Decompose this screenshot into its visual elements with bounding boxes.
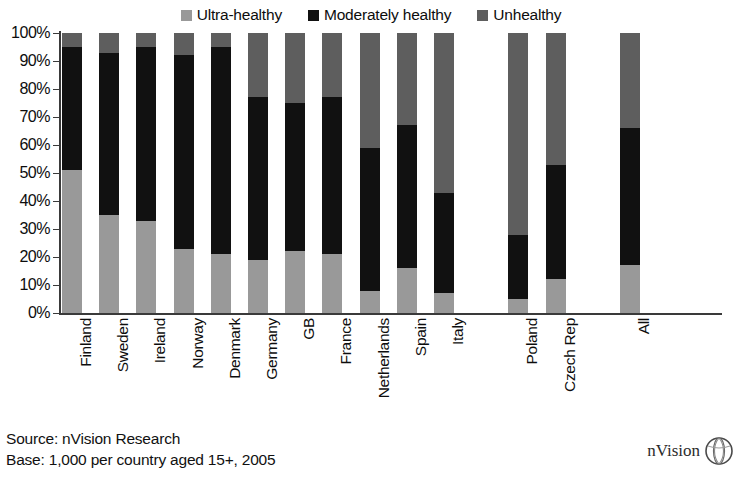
bar-segment-ultra-healthy[interactable] [285, 251, 305, 313]
stacked-bar[interactable] [434, 33, 454, 313]
y-axis-tick-label: 40% [0, 193, 50, 209]
x-axis-category-labels: FinlandSwedenIrelandNorwayDenmarkGermany… [62, 318, 722, 423]
y-axis-tick-label: 100% [0, 25, 50, 41]
bar-segment-ultra-healthy[interactable] [99, 215, 119, 313]
x-axis-label-spain: Spain [413, 318, 429, 356]
x-axis-label-france: France [338, 318, 354, 364]
bar-segment-unhealthy[interactable] [546, 33, 566, 165]
stacked-bar[interactable] [620, 33, 640, 313]
y-axis-tick-label: 10% [0, 277, 50, 293]
y-axis-line [59, 31, 61, 315]
x-axis-line [59, 313, 722, 315]
bar-segment-ultra-healthy[interactable] [136, 221, 156, 313]
bar-segment-ultra-healthy[interactable] [248, 260, 268, 313]
bar-segment-moderately-healthy[interactable] [322, 97, 342, 254]
x-axis-label-czech-rep: Czech Rep [562, 318, 578, 392]
y-axis-tick-label: 80% [0, 81, 50, 97]
bar-segment-moderately-healthy[interactable] [360, 148, 380, 291]
bar-segment-unhealthy[interactable] [174, 33, 194, 55]
bar-segment-unhealthy[interactable] [62, 33, 82, 47]
bar-segment-unhealthy[interactable] [397, 33, 417, 125]
stacked-bar[interactable] [211, 33, 231, 313]
bar-segment-moderately-healthy[interactable] [211, 47, 231, 254]
bar-segment-ultra-healthy[interactable] [397, 268, 417, 313]
y-axis-tick-label: 20% [0, 249, 50, 265]
y-axis-tick-label: 90% [0, 53, 50, 69]
stacked-bar[interactable] [360, 33, 380, 313]
bar-segment-moderately-healthy[interactable] [397, 125, 417, 268]
bar-segment-moderately-healthy[interactable] [508, 235, 528, 299]
bar-segment-unhealthy[interactable] [285, 33, 305, 103]
stacked-bar[interactable] [508, 33, 528, 313]
x-axis-label-netherlands: Netherlands [376, 318, 392, 398]
stacked-bar[interactable] [322, 33, 342, 313]
x-axis-label-finland: Finland [78, 318, 94, 367]
bar-segment-ultra-healthy[interactable] [508, 299, 528, 313]
y-axis-tick-label: 30% [0, 221, 50, 237]
footnote-base: Base: 1,000 per country aged 15+, 2005 [6, 449, 275, 470]
x-axis-label-poland: Poland [524, 318, 540, 364]
x-axis-label-norway: Norway [190, 318, 206, 369]
stacked-bar[interactable] [285, 33, 305, 313]
bar-segment-moderately-healthy[interactable] [248, 97, 268, 259]
bar-segment-moderately-healthy[interactable] [434, 193, 454, 294]
bar-segment-ultra-healthy[interactable] [546, 279, 566, 313]
stacked-bar[interactable] [62, 33, 82, 313]
y-axis-tick-label: 60% [0, 137, 50, 153]
stacked-bar[interactable] [248, 33, 268, 313]
bar-segment-unhealthy[interactable] [620, 33, 640, 128]
x-axis-label-ireland: Ireland [152, 318, 168, 363]
bar-segment-moderately-healthy[interactable] [546, 165, 566, 280]
y-axis-tick-label: 50% [0, 165, 50, 181]
stacked-bar[interactable] [546, 33, 566, 313]
stacked-bar[interactable] [174, 33, 194, 313]
bar-segment-moderately-healthy[interactable] [136, 47, 156, 221]
bar-segment-unhealthy[interactable] [211, 33, 231, 47]
stacked-bar-plot-area [62, 33, 722, 313]
bar-segment-ultra-healthy[interactable] [62, 170, 82, 313]
x-axis-label-gb: GB [301, 318, 317, 340]
bar-segment-unhealthy[interactable] [508, 33, 528, 235]
bar-segment-moderately-healthy[interactable] [620, 128, 640, 265]
x-axis-label-germany: Germany [264, 318, 280, 380]
bar-segment-unhealthy[interactable] [322, 33, 342, 97]
footnote-source: Source: nVision Research [6, 428, 275, 449]
bar-segment-unhealthy[interactable] [136, 33, 156, 47]
x-axis-label-all: All [636, 318, 652, 334]
bar-segment-ultra-healthy[interactable] [360, 291, 380, 313]
brand-logo: nVision [647, 436, 734, 466]
bar-segment-moderately-healthy[interactable] [285, 103, 305, 251]
bar-segment-ultra-healthy[interactable] [620, 265, 640, 313]
y-axis-tick-label: 70% [0, 109, 50, 125]
bar-segment-unhealthy[interactable] [99, 33, 119, 53]
bar-segment-unhealthy[interactable] [248, 33, 268, 97]
bar-segment-unhealthy[interactable] [360, 33, 380, 148]
bar-segment-moderately-healthy[interactable] [62, 47, 82, 170]
stacked-bar[interactable] [397, 33, 417, 313]
bar-segment-ultra-healthy[interactable] [174, 249, 194, 313]
y-axis-tick-label: 0% [0, 305, 50, 321]
stacked-bar[interactable] [136, 33, 156, 313]
bar-segment-ultra-healthy[interactable] [211, 254, 231, 313]
globe-logo-icon [704, 436, 734, 466]
bar-segment-unhealthy[interactable] [434, 33, 454, 193]
x-axis-label-sweden: Sweden [115, 318, 131, 372]
bar-segment-ultra-healthy[interactable] [322, 254, 342, 313]
brand-name: nVision [647, 441, 700, 461]
stacked-bar[interactable] [99, 33, 119, 313]
x-axis-label-denmark: Denmark [227, 318, 243, 379]
x-axis-label-italy: Italy [450, 318, 466, 345]
bar-segment-moderately-healthy[interactable] [174, 55, 194, 248]
bar-segment-ultra-healthy[interactable] [434, 293, 454, 313]
chart-footnote: Source: nVision Research Base: 1,000 per… [6, 428, 275, 470]
bar-segment-moderately-healthy[interactable] [99, 53, 119, 215]
